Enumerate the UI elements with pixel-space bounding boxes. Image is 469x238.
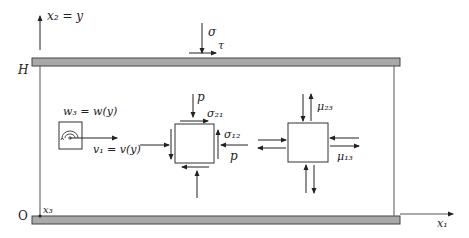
channel-flow-diagram: x₂ = y H x₁ O x₃ σ τ w₃ = w(y) v₁ = v(y)… [0,0,469,238]
couple-stress-element: μ₂₃ μ₁₃ [258,94,359,193]
couple-stress-square [288,123,328,162]
mu-23-label: μ₂₃ [317,100,333,113]
rotation-icon [61,131,78,140]
bottom-plate [32,216,400,224]
mu-13-label: μ₁₃ [337,150,353,163]
stress-element-square [175,124,214,163]
pressure-right-label: p [230,149,238,163]
origin-dot [39,215,42,218]
top-plate [32,58,400,66]
y-axis-label: x₂ = y [47,9,83,23]
stress-element: p σ₂₁ σ₁₂ p [140,90,248,198]
velocity-label: v₁ = v(y) [93,143,141,156]
shear-12-label: σ₁₂ [224,128,240,141]
x-axis-label: x₁ [437,217,448,230]
x3-label: x₃ [43,204,53,215]
tau-label: τ [218,39,225,52]
height-label: H [17,63,29,77]
sigma-label: σ [208,25,217,39]
microrotation-label: w₃ = w(y) [63,105,117,118]
pressure-top-label: p [197,90,205,104]
shear-21-label: σ₂₁ [207,107,223,120]
origin-label: O [18,209,28,223]
